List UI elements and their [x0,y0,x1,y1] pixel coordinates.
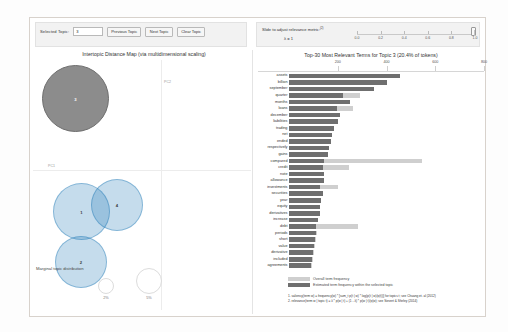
bar-topic-frequency [289,74,400,79]
slider-tick-label: 0.4 [402,36,407,40]
bar-topic-frequency [289,172,324,177]
bar-topic-frequency [289,113,340,118]
top-terms-bar-chart: 200400600800 assetsbillionseptemberquart… [258,62,484,272]
bar-chart-rows: assetsbillionseptemberquartermonthsloans… [258,73,484,269]
term-label[interactable]: liabilities [273,119,287,123]
slider-tick-mark [451,31,452,34]
term-label[interactable]: periods [275,231,287,235]
marginal-circle-2pct [98,278,114,294]
bar-topic-frequency [289,100,350,105]
panel-divider [252,50,253,314]
slider-tick-label: 0.0 [355,36,360,40]
selected-topic-input[interactable] [73,27,103,36]
topic-control-row: Selected Topic: Previous Topic Next Topi… [40,27,205,37]
topic-bubble-label: 2 [80,260,82,265]
legend-label-topic: Estimated term frequency within the sele… [313,283,393,287]
bar-chart-legend: Overall term frequency Estimated term fr… [288,276,478,288]
clear-topic-button[interactable]: Clear Topic [177,27,205,37]
lambda-value-label: λ = 1 [284,36,293,41]
legend-swatch-topic [288,283,310,287]
slider-tick-label: 1.0 [473,36,478,40]
bar-topic-frequency [289,231,316,236]
x-axis-tick [387,66,388,71]
bar-topic-frequency [289,224,316,229]
term-label[interactable]: year [280,198,287,202]
term-label[interactable]: securities [271,191,287,195]
term-label[interactable]: september [270,86,288,90]
map-x-axis [33,170,251,171]
term-label[interactable]: equity [277,204,287,208]
x-axis-tick-label: 200 [335,60,341,64]
term-label[interactable]: gains [278,152,287,156]
footnote-formulas: 1. saliency(term w) = frequency(w) * [su… [288,294,484,304]
bar-topic-frequency [289,165,323,170]
term-label[interactable]: december [271,113,288,117]
topic-bubble-4[interactable]: 4 [91,179,143,231]
marginal-topic-distribution-label: Marginal topic distribution [36,266,83,271]
x-axis-tick-label: 800 [481,60,487,64]
previous-topic-button[interactable]: Previous Topic [107,27,141,37]
relevance-slider-ticks: 0.00.20.40.60.81.0 [357,31,475,45]
legend-row-topic: Estimated term frequency within the sele… [288,282,478,288]
term-label[interactable]: compared [271,159,288,163]
bar-topic-frequency [289,257,312,262]
term-label[interactable]: short [279,237,287,241]
term-label[interactable]: debt [280,224,287,228]
term-label[interactable]: credit [278,165,287,169]
bar-topic-frequency [289,93,343,98]
x-axis-tick [435,66,436,71]
slider-tick-label: 0.6 [425,36,430,40]
term-label[interactable]: agreements [267,263,287,267]
marginal-size-label: 2% [103,296,109,300]
term-label[interactable]: allowance [271,178,288,182]
term-label[interactable]: ended [277,139,288,143]
bar-topic-frequency [289,152,328,157]
term-label[interactable]: note [280,172,287,176]
slider-tick-mark [381,31,382,34]
term-label[interactable]: increase [273,217,287,221]
topic-bubble-label: 3 [74,96,76,101]
bar-chart-row[interactable]: agreements [258,263,484,270]
term-label[interactable]: quarter [275,93,287,97]
bar-topic-frequency [289,191,323,196]
term-label[interactable]: assets [277,73,288,77]
legend-label-overall: Overall term frequency [313,277,349,281]
term-label[interactable]: investments [267,185,287,189]
marginal-size-label: 5% [146,296,152,300]
slider-tick-label: 0.2 [378,36,383,40]
term-label[interactable]: months [275,100,287,104]
relevance-slider-handle[interactable] [471,27,476,36]
term-label[interactable]: billion [278,80,288,84]
term-label[interactable]: derivatives [269,211,287,215]
marginal-circle-5pct [136,268,162,294]
bar-topic-frequency [289,126,334,131]
bar-topic-frequency [289,146,329,151]
bar-topic-frequency [289,159,324,164]
term-label[interactable]: loans [278,106,287,110]
ldavis-visualization: Selected Topic: Previous Topic Next Topi… [0,0,508,332]
term-label[interactable]: derivative [271,250,287,254]
map-pc1-axis-label: PC1 [48,164,55,168]
topic-bubble-3[interactable]: 3 [42,65,109,132]
relevance-title-text: Slide to adjust relevance metric: [262,27,320,32]
map-pc2-axis-label: PC2 [164,80,171,84]
bar-topic-frequency [289,250,313,255]
legend-swatch-overall [288,277,310,281]
topic-bubble-label: 1 [80,209,82,214]
bar-chart-title: Top-30 Most Relevant Terms for Topic 3 (… [258,52,484,58]
term-label[interactable]: trading [276,126,288,130]
x-axis-tick [338,66,339,71]
term-label[interactable]: value [278,244,287,248]
bar-topic-frequency [289,119,338,124]
next-topic-button[interactable]: Next Topic [145,27,173,37]
relevance-formula: 2. relevance(term w | topic t) = λ * p(w… [288,299,484,304]
bar-topic-frequency [289,106,337,111]
slider-tick-mark [357,31,358,34]
term-label[interactable]: net [282,132,287,136]
term-label[interactable]: respectively [267,145,287,149]
marginal-size-legend: 2% 5% [92,252,212,310]
bar-topic-frequency [289,87,374,92]
term-label[interactable]: included [273,257,287,261]
slider-tick-mark [404,31,405,34]
bar-topic-frequency [289,263,311,268]
